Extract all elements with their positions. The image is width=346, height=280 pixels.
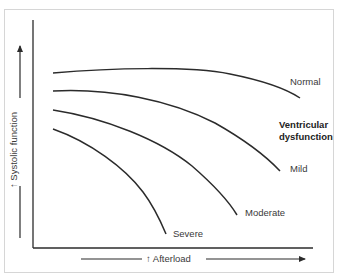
curve-label-severe: Severe xyxy=(173,229,203,239)
curve-normal xyxy=(53,69,300,98)
ventricular-dysfunction-line2: dysfunction xyxy=(279,131,333,143)
curve-label-normal: Normal xyxy=(290,77,321,87)
curve-mild xyxy=(53,91,280,171)
ventricular-dysfunction-line1: Ventricular xyxy=(279,119,333,131)
y-axis-label: ↑ Systolic function xyxy=(9,112,19,188)
curve-moderate xyxy=(53,110,237,215)
curve-label-moderate: Moderate xyxy=(245,208,285,218)
curve-label-mild: Mild xyxy=(290,164,307,174)
x-axis-label: ↑ Afterload xyxy=(146,254,191,264)
ventricular-dysfunction-label: Ventricular dysfunction xyxy=(279,119,333,143)
curve-severe xyxy=(53,129,166,234)
